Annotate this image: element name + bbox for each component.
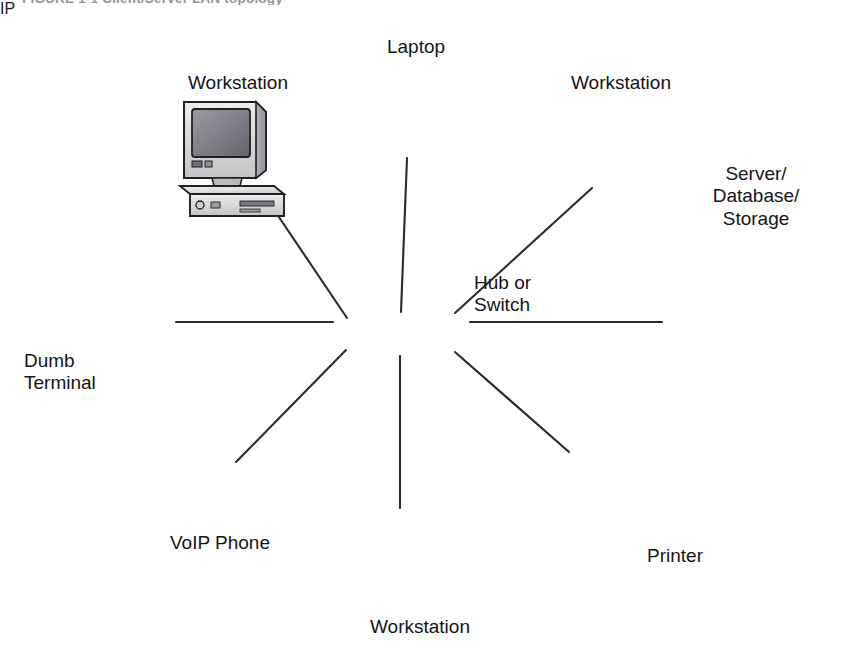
label-hub-switch: Hub or Switch [474, 272, 604, 317]
label-server-database-storage: Server/ Database/ Storage [690, 163, 822, 230]
label-workstation-top-right: Workstation [551, 72, 691, 94]
link-laptop [401, 158, 407, 312]
link-voip-phone [236, 350, 346, 462]
desktop-computer-icon [180, 102, 284, 216]
label-workstation-top-left: Workstation [168, 72, 308, 94]
figure-root: FIGURE 1-1 Client/Server LAN topology [0, 0, 842, 656]
label-voip-phone: VoIP Phone [140, 532, 300, 554]
node-workstation-top-left[interactable] [180, 102, 284, 216]
label-workstation-bottom: Workstation [350, 616, 490, 638]
label-laptop: Laptop [356, 36, 476, 58]
label-dumb-terminal: Dumb Terminal [24, 350, 154, 395]
label-printer: Printer [620, 545, 730, 567]
link-printer [455, 352, 569, 452]
